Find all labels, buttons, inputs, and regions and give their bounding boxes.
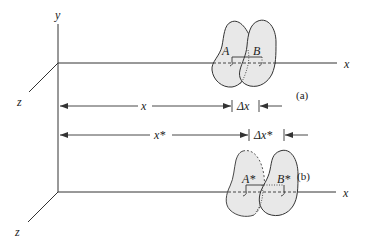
dim-delta-x-star-label: Δx* [253, 128, 272, 142]
dim-x-label: x [140, 99, 147, 113]
diagram-canvas: y x z A B (a) x Δx x* Δ [0, 0, 366, 249]
z-axis-a [29, 63, 58, 92]
y-axis-label: y [54, 8, 61, 22]
panel-a: x z A B (a) [16, 20, 350, 109]
body-a-label: A [221, 44, 230, 58]
panel-b: x z A* B* (b) [14, 150, 349, 239]
coordinate-transform-diagram: y x z A B (a) x Δx x* Δ [0, 0, 366, 249]
x-axis-label-a: x [343, 57, 350, 71]
z-axis-b [28, 192, 58, 222]
dimension-x: x Δx [60, 99, 282, 113]
z-axis-label-a: z [16, 95, 22, 109]
body-a-star-label: A* [241, 172, 255, 186]
dimension-x-star: x* Δx* [60, 128, 308, 142]
z-axis-label-b: z [14, 225, 20, 239]
panel-a-label: (a) [296, 89, 309, 102]
dim-x-star-label: x* [153, 128, 165, 142]
body-b-label: B [253, 44, 261, 58]
panel-b-label: (b) [297, 170, 310, 183]
dim-delta-x-label: Δx [236, 99, 250, 113]
body-b-star-label: B* [277, 172, 290, 186]
x-axis-label-b: x [342, 186, 349, 200]
